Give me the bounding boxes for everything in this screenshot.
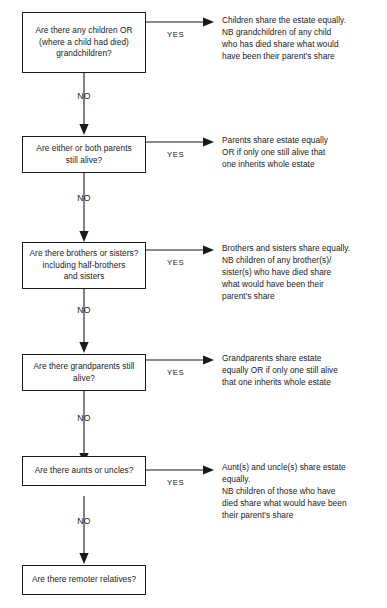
- decision-box-grandparents-label: Are there grandparents still alive?: [33, 361, 134, 385]
- decision-box-remoter-relatives[interactable]: Are there remoter relatives?: [22, 565, 146, 595]
- no-label-siblings: NO: [71, 305, 97, 315]
- no-arrow-parents: [79, 173, 88, 242]
- yes-label-parents: YES: [167, 150, 184, 159]
- yes-arrow-children: [146, 18, 214, 27]
- yes-arrow-siblings: [146, 246, 214, 255]
- decision-box-remoter-relatives-label: Are there remoter relatives?: [32, 574, 136, 586]
- outcome-children: Children share the estate equally. NB gr…: [222, 14, 387, 62]
- no-label-aunts-uncles: NO: [71, 516, 97, 526]
- outcome-aunts-uncles: Aunt(s) and uncle(s) share estate equall…: [222, 461, 387, 521]
- decision-box-aunts-uncles-label: Are there aunts or uncles?: [35, 465, 134, 477]
- outcome-siblings: Brothers and sisters share equally. NB c…: [222, 242, 387, 302]
- no-label-grandparents: NO: [71, 413, 97, 423]
- decision-box-parents[interactable]: Are either or both parents still alive?: [22, 136, 146, 173]
- no-arrow-children: [79, 73, 88, 135]
- no-arrow-aunts-uncles: [79, 496, 88, 564]
- no-arrow-siblings: [79, 289, 88, 353]
- decision-box-parents-label: Are either or both parents still alive?: [36, 143, 131, 167]
- yes-label-siblings: YES: [167, 258, 184, 267]
- outcome-grandparents: Grandparents share estate equally OR if …: [222, 352, 387, 388]
- yes-arrow-aunts-uncles: [146, 466, 214, 475]
- no-label-children: NO: [71, 91, 97, 101]
- yes-label-grandparents: YES: [167, 368, 184, 377]
- yes-arrow-grandparents: [146, 356, 214, 365]
- decision-box-aunts-uncles[interactable]: Are there aunts or uncles?: [22, 456, 146, 486]
- yes-arrow-parents: [146, 138, 214, 147]
- flowchart: Are there any children OR (where a child…: [0, 0, 387, 608]
- no-arrow-grandparents: [79, 391, 88, 464]
- decision-box-siblings[interactable]: Are there brothers or sisters? including…: [22, 242, 146, 289]
- yes-label-aunts-uncles: YES: [167, 478, 184, 487]
- decision-box-grandparents[interactable]: Are there grandparents still alive?: [22, 354, 146, 391]
- no-label-parents: NO: [71, 193, 97, 203]
- outcome-parents: Parents share estate equally OR if only …: [222, 134, 387, 170]
- yes-label-children: YES: [167, 30, 184, 39]
- decision-box-children-label: Are there any children OR (where a child…: [35, 25, 132, 60]
- decision-box-children[interactable]: Are there any children OR (where a child…: [22, 12, 146, 73]
- decision-box-siblings-label: Are there brothers or sisters? including…: [30, 248, 139, 283]
